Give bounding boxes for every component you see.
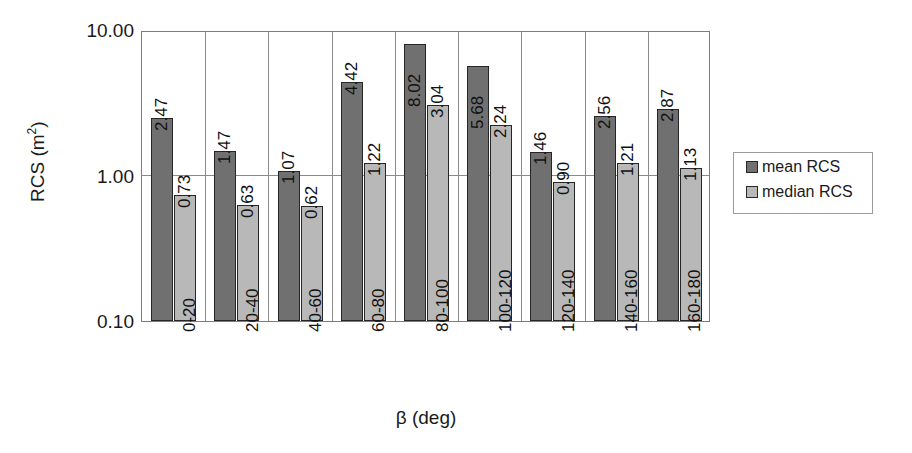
y-axis-title: RCS (m2) xyxy=(25,72,48,252)
bar-group-60-80: 4.421.22 xyxy=(341,32,386,321)
bar-value-label-60-80-mean: 4.42 xyxy=(343,61,360,94)
bar-group-0-20: 2.470.73 xyxy=(151,32,196,321)
category-separator-60-80 xyxy=(332,32,333,321)
bar-value-label-100-120-median: 2.24 xyxy=(492,104,509,137)
y-axis-title-text: RCS (m xyxy=(27,134,48,202)
x-tick-120-140: 120-140 xyxy=(560,270,577,332)
y-tick-1.00: 1.00 xyxy=(60,167,134,186)
bar-value-label-120-140-mean: 1.46 xyxy=(532,131,549,164)
bar-20-40-mean[interactable] xyxy=(214,151,236,321)
y-tick-10.00: 10.00 xyxy=(60,21,134,40)
bar-value-label-80-100-mean: 8.02 xyxy=(406,74,423,107)
x-tick-60-80: 60-80 xyxy=(370,289,387,332)
bar-group-20-40: 1.470.63 xyxy=(214,32,259,321)
legend-item-median-rcs[interactable]: median RCS xyxy=(746,184,872,200)
category-separator-40-60 xyxy=(268,32,269,321)
bar-value-label-160-180-mean: 2.87 xyxy=(659,89,676,122)
category-separator-160-180 xyxy=(648,32,649,321)
bar-value-label-0-20-median: 0.73 xyxy=(176,175,193,208)
bar-group-80-100: 8.023.04 xyxy=(404,32,449,321)
bar-60-80-mean[interactable] xyxy=(341,82,363,321)
bar-value-label-120-140-median: 0.90 xyxy=(555,162,572,195)
bar-40-60-mean[interactable] xyxy=(278,171,300,321)
bar-group-40-60: 1.070.62 xyxy=(278,32,323,321)
category-separator-120-140 xyxy=(521,32,522,321)
x-axis-title: β (deg) xyxy=(0,407,852,429)
category-separator-140-160 xyxy=(585,32,586,321)
bar-value-label-20-40-median: 0.63 xyxy=(239,185,256,218)
bar-value-label-140-160-median: 1.21 xyxy=(619,143,636,176)
legend-label-mean-rcs: mean RCS xyxy=(762,159,840,175)
bar-120-140-mean[interactable] xyxy=(530,152,552,321)
bar-value-label-60-80-median: 1.22 xyxy=(366,143,383,176)
y-axis-title-exponent: 2 xyxy=(25,128,39,135)
bar-value-label-100-120-mean: 5.68 xyxy=(469,96,486,129)
category-separator-20-40 xyxy=(205,32,206,321)
x-tick-140-160: 140-160 xyxy=(623,270,640,332)
bar-value-label-80-100-median: 3.04 xyxy=(429,85,446,118)
bar-value-label-0-20-mean: 2.47 xyxy=(153,98,170,131)
category-separator-80-100 xyxy=(395,32,396,321)
bar-140-160-mean[interactable] xyxy=(594,116,616,321)
legend-swatch-mean-rcs xyxy=(746,161,758,173)
x-tick-80-100: 80-100 xyxy=(434,279,451,332)
legend-item-mean-rcs[interactable]: mean RCS xyxy=(746,159,872,175)
bar-value-label-160-180-median: 1.13 xyxy=(682,148,699,181)
y-axis-title-tail: ) xyxy=(27,121,48,127)
x-tick-160-180: 160-180 xyxy=(686,270,703,332)
chart-legend: mean RCS median RCS xyxy=(733,152,873,214)
legend-swatch-median-rcs xyxy=(746,186,758,198)
x-tick-100-120: 100-120 xyxy=(497,270,514,332)
bar-value-label-140-160-mean: 2.56 xyxy=(596,96,613,129)
bar-160-180-mean[interactable] xyxy=(657,109,679,321)
bar-value-label-20-40-mean: 1.47 xyxy=(216,131,233,164)
bar-0-20-mean[interactable] xyxy=(151,118,173,321)
bar-value-label-40-60-mean: 1.07 xyxy=(280,151,297,184)
x-tick-0-20: 0-20 xyxy=(181,298,198,332)
category-separator-100-120 xyxy=(458,32,459,321)
x-tick-40-60: 40-60 xyxy=(307,289,324,332)
bar-value-label-40-60-median: 0.62 xyxy=(303,186,320,219)
x-tick-20-40: 20-40 xyxy=(244,289,261,332)
y-tick-0.10: 0.10 xyxy=(60,312,134,331)
legend-label-median-rcs: median RCS xyxy=(762,184,853,200)
chart-figure: RCS (m2) 10.001.000.10 2.470.731.470.631… xyxy=(0,0,912,453)
